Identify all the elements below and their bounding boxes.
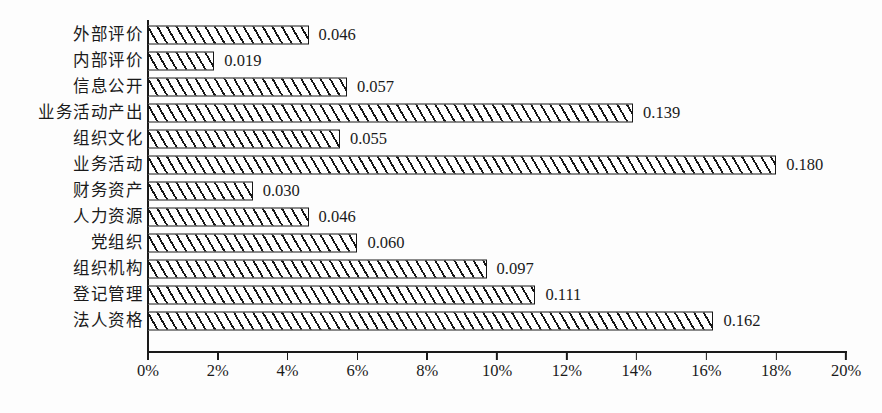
bar-value-label: 0.030 [263, 183, 300, 200]
bar-value-label: 0.097 [497, 261, 534, 278]
bar [148, 52, 214, 71]
bar [148, 78, 347, 97]
category-label: 党组织 [91, 235, 144, 252]
x-tick-label: 18% [761, 363, 791, 380]
x-tick-label: 16% [691, 363, 721, 380]
bar-value-label: 0.139 [643, 105, 680, 122]
x-tick-mark [217, 353, 219, 360]
bar [148, 182, 253, 201]
x-tick: 16% [691, 353, 721, 380]
bar [148, 26, 309, 45]
bar-with-value: 0.060 [148, 234, 405, 253]
bar-row: 法人资格0.162 [148, 308, 846, 334]
x-tick-label: 8% [416, 363, 438, 380]
bar [148, 234, 357, 253]
bar-value-label: 0.111 [545, 287, 581, 304]
bar-value-label: 0.180 [786, 157, 823, 174]
x-tick-label: 12% [552, 363, 582, 380]
bar [148, 312, 713, 331]
x-tick: 10% [482, 353, 512, 380]
bar-row: 信息公开0.057 [148, 74, 846, 100]
x-tick: 18% [761, 353, 791, 380]
bar-with-value: 0.111 [148, 286, 581, 305]
category-label: 内部评价 [73, 53, 143, 70]
bar-row: 党组织0.060 [148, 230, 846, 256]
x-tick-mark [706, 353, 708, 360]
bar [148, 286, 535, 305]
bar-with-value: 0.162 [148, 312, 761, 331]
x-tick-mark [357, 353, 359, 360]
bar-value-label: 0.162 [723, 313, 760, 330]
category-label: 信息公开 [73, 79, 143, 96]
bar-row: 人力资源0.046 [148, 204, 846, 230]
category-label: 业务活动 [73, 157, 143, 174]
bar-value-label: 0.046 [319, 27, 356, 44]
bar-with-value: 0.180 [148, 156, 823, 175]
bar-row: 财务资产0.030 [148, 178, 846, 204]
x-tick-mark [636, 353, 638, 360]
bar [148, 104, 633, 123]
x-tick-mark [287, 353, 289, 360]
category-label: 财务资产 [73, 183, 143, 200]
x-tick-label: 6% [346, 363, 368, 380]
bar-value-label: 0.060 [367, 235, 404, 252]
x-tick-mark [426, 353, 428, 360]
bar-with-value: 0.046 [148, 26, 356, 45]
category-label: 法人资格 [73, 313, 143, 330]
bar-row: 组织机构0.097 [148, 256, 846, 282]
x-tick: 4% [277, 353, 299, 380]
bar-value-label: 0.019 [224, 53, 261, 70]
bar-with-value: 0.139 [148, 104, 680, 123]
bar-row: 业务活动产出0.139 [148, 100, 846, 126]
x-tick-label: 0% [137, 363, 159, 380]
category-label: 组织机构 [73, 261, 143, 278]
x-tick-mark [147, 353, 149, 360]
bar-with-value: 0.097 [148, 260, 534, 279]
x-tick-label: 20% [831, 363, 861, 380]
x-tick-label: 14% [621, 363, 651, 380]
bar [148, 130, 340, 149]
bar-rows: 外部评价0.046内部评价0.019信息公开0.057业务活动产出0.139组织… [148, 22, 846, 334]
bar [148, 208, 309, 227]
x-tick-label: 4% [277, 363, 299, 380]
bar-value-label: 0.046 [319, 209, 356, 226]
category-label: 业务活动产出 [38, 105, 143, 122]
x-tick: 12% [552, 353, 582, 380]
x-tick: 8% [416, 353, 438, 380]
bar-row: 业务活动0.180 [148, 152, 846, 178]
bar-row: 外部评价0.046 [148, 22, 846, 48]
x-tick-label: 2% [207, 363, 229, 380]
x-tick-label: 10% [482, 363, 512, 380]
x-tick: 20% [831, 353, 861, 380]
bar-row: 登记管理0.111 [148, 282, 846, 308]
bar-with-value: 0.055 [148, 130, 387, 149]
category-label: 人力资源 [73, 209, 143, 226]
bar-with-value: 0.057 [148, 78, 394, 97]
category-label: 登记管理 [73, 287, 143, 304]
bar-row: 内部评价0.019 [148, 48, 846, 74]
x-tick: 6% [346, 353, 368, 380]
x-tick-mark [496, 353, 498, 360]
x-tick: 0% [137, 353, 159, 380]
bar-row: 组织文化0.055 [148, 126, 846, 152]
bar-with-value: 0.030 [148, 182, 300, 201]
bar-with-value: 0.046 [148, 208, 356, 227]
x-tick: 14% [621, 353, 651, 380]
plot-area: 外部评价0.046内部评价0.019信息公开0.057业务活动产出0.139组织… [148, 22, 846, 352]
category-label: 外部评价 [73, 27, 143, 44]
x-tick-mark [566, 353, 568, 360]
x-axis-ticks: 0%2%4%6%8%10%12%14%16%18%20% [148, 353, 846, 403]
x-tick: 2% [207, 353, 229, 380]
category-label: 组织文化 [73, 131, 143, 148]
x-tick-mark [845, 353, 847, 360]
bar [148, 260, 487, 279]
bar-chart: 外部评价0.046内部评价0.019信息公开0.057业务活动产出0.139组织… [0, 0, 882, 413]
x-tick-mark [775, 353, 777, 360]
bar-value-label: 0.057 [357, 79, 394, 96]
bar-with-value: 0.019 [148, 52, 261, 71]
bar [148, 156, 776, 175]
bar-value-label: 0.055 [350, 131, 387, 148]
